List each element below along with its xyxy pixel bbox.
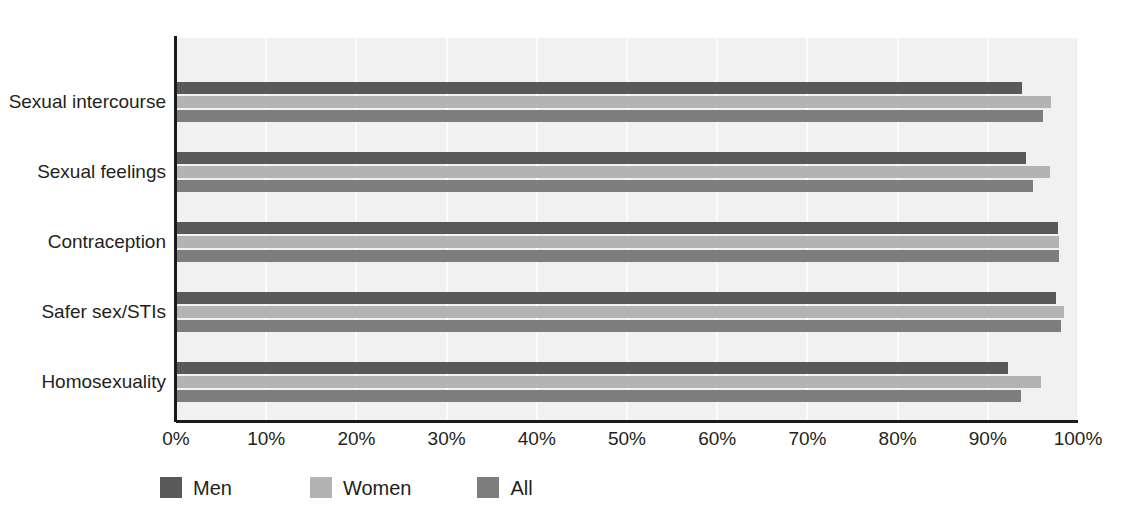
horizontal-bar-chart: Sexual intercourseSexual feelingsContrac… [0,0,1134,520]
bar [176,292,1056,304]
x-tick-label: 60% [698,428,736,450]
legend-label-men: Men [193,478,232,498]
bar [176,236,1059,248]
bar [176,82,1022,94]
legend-swatch-women-icon [310,477,332,498]
category-label: Sexual feelings [0,162,166,182]
bar [176,306,1064,318]
legend-swatch-men-icon [160,477,182,498]
x-tick-label: 50% [608,428,646,450]
x-tick-label: 20% [337,428,375,450]
bar [176,166,1050,178]
x-tick-label: 10% [247,428,285,450]
gridline [1077,38,1078,420]
x-tick-label: 70% [788,428,826,450]
category-label: Contraception [0,232,166,252]
x-tick-label: 100% [1054,428,1103,450]
x-tick-label: 0% [162,428,189,450]
legend-label-women: Women [343,478,412,498]
legend-swatch-all-icon [477,477,499,498]
category-label: Safer sex/STIs [0,302,166,322]
chart-legend: Men Women All [160,477,533,498]
y-axis-line [174,36,177,422]
x-tick-label: 90% [969,428,1007,450]
x-tick-label: 30% [428,428,466,450]
x-axis-line [176,420,1078,423]
bar [176,250,1059,262]
bar [176,110,1043,122]
bar [176,362,1008,374]
plot-area [176,38,1078,420]
bar [176,96,1051,108]
bar [176,390,1021,402]
bar [176,222,1058,234]
bar [176,152,1026,164]
bar [176,180,1033,192]
x-tick-label: 80% [879,428,917,450]
legend-item-women[interactable]: Women [310,477,412,498]
bar [176,320,1061,332]
legend-item-men[interactable]: Men [160,477,232,498]
category-label: Homosexuality [0,372,166,392]
legend-label-all: All [510,478,532,498]
x-tick-label: 40% [518,428,556,450]
category-label: Sexual intercourse [0,92,166,112]
legend-item-all[interactable]: All [477,477,532,498]
bar [176,376,1041,388]
